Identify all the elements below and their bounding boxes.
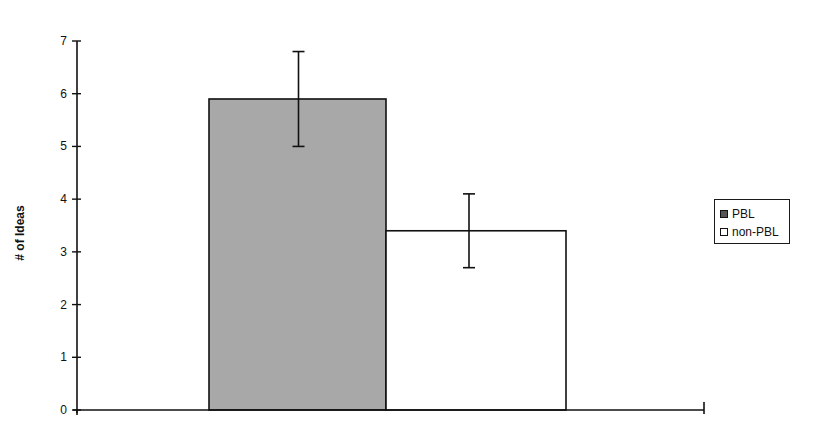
bars <box>209 52 566 410</box>
y-tick-label: 2 <box>60 298 67 312</box>
y-tick-label: 3 <box>60 245 67 259</box>
y-tick-label: 1 <box>60 350 67 364</box>
bar-chart: 01234567 <box>0 0 824 435</box>
y-tick-label: 0 <box>60 403 67 417</box>
y-tick-label: 6 <box>60 87 67 101</box>
legend-swatch-non-pbl <box>720 228 728 236</box>
legend-swatch-pbl <box>720 210 728 218</box>
y-axis: 01234567 <box>60 34 81 417</box>
y-tick-label: 4 <box>60 192 67 206</box>
bar-non-pbl <box>386 231 566 410</box>
y-axis-label: # of Ideas <box>13 205 27 260</box>
legend-item-pbl: PBL <box>720 207 755 221</box>
legend-item-non-pbl: non-PBL <box>720 225 779 239</box>
y-tick-label: 5 <box>60 139 67 153</box>
y-tick-label: 7 <box>60 34 67 48</box>
legend-label-pbl: PBL <box>732 207 755 221</box>
legend-label-non-pbl: non-PBL <box>732 225 779 239</box>
legend: PBL non-PBL <box>714 199 790 244</box>
